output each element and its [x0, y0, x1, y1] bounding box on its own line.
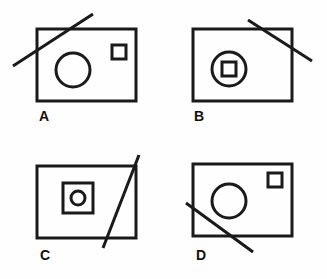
panel-c-group	[37, 155, 139, 248]
panel-d-group	[186, 164, 292, 252]
panel-a-group	[13, 14, 136, 101]
panel-c-square	[63, 183, 93, 213]
panel-label-a: A	[39, 109, 49, 123]
panel-label-d: D	[196, 248, 206, 262]
panel-a-small-square	[112, 45, 126, 59]
figure-svg	[0, 0, 327, 279]
panel-b-diagonal-line	[248, 20, 312, 61]
panel-a-diagonal-line	[13, 14, 93, 66]
panel-a-circle	[56, 53, 90, 87]
panel-label-c: C	[40, 248, 50, 262]
figure-container: A B C D	[0, 0, 327, 279]
panel-d-circle	[212, 184, 246, 218]
panel-d-rectangle	[193, 164, 292, 236]
panel-d-small-square	[268, 173, 282, 187]
panel-label-b: B	[194, 109, 204, 123]
panel-b-inner-square	[222, 62, 236, 76]
panel-c-circle	[71, 191, 85, 205]
panel-b-group	[193, 20, 312, 101]
panel-c-diagonal-line	[103, 155, 139, 248]
panel-b-circle	[212, 52, 246, 86]
